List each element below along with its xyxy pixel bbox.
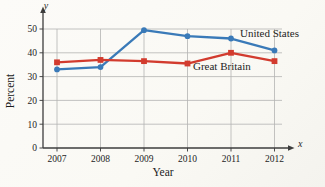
data-point-united-states-2009 — [141, 27, 147, 33]
data-point-united-states-2007 — [54, 67, 60, 73]
data-point-great-britain-2010 — [185, 61, 191, 67]
line-chart: 01020304050200720082009201020112012xyYea… — [0, 0, 325, 187]
chart-labels: 01020304050200720082009201020112012xyYea… — [4, 0, 303, 178]
data-point-great-britain-2009 — [141, 58, 147, 64]
y-tick-label-50: 50 — [28, 24, 38, 34]
x-tick-label-2010: 2010 — [178, 154, 197, 164]
data-point-united-states-2008 — [98, 64, 104, 70]
x-tick-label-2008: 2008 — [91, 154, 110, 164]
data-point-united-states-2012 — [272, 48, 278, 54]
data-point-united-states-2010 — [185, 33, 191, 39]
data-point-great-britain-2011 — [228, 50, 234, 56]
y-tick-label-40: 40 — [28, 48, 38, 58]
x-tick-label-2011: 2011 — [222, 154, 241, 164]
x-tick-label-2007: 2007 — [48, 154, 67, 164]
chart-figure: 01020304050200720082009201020112012xyYea… — [0, 0, 325, 187]
y-axis-symbol: y — [43, 0, 49, 11]
x-tick-label-2009: 2009 — [135, 154, 154, 164]
x-axis-arrow — [288, 145, 295, 151]
y-tick-label-20: 20 — [28, 96, 38, 106]
gridlines — [43, 29, 282, 148]
data-point-great-britain-2012 — [272, 58, 278, 64]
series-label-united-states: United States — [240, 27, 299, 39]
data-point-great-britain-2007 — [54, 59, 60, 65]
y-tick-label-30: 30 — [28, 72, 38, 82]
y-axis-title: Percent — [4, 73, 16, 108]
data-point-great-britain-2008 — [98, 57, 104, 63]
data-point-united-states-2011 — [228, 36, 234, 42]
x-tick-label-2012: 2012 — [265, 154, 284, 164]
x-axis-title: Year — [152, 166, 173, 178]
series-label-great-britain: Great Britain — [193, 60, 251, 72]
x-axis-symbol: x — [297, 138, 303, 149]
y-tick-label-10: 10 — [28, 120, 38, 130]
y-tick-label-0: 0 — [32, 143, 37, 153]
